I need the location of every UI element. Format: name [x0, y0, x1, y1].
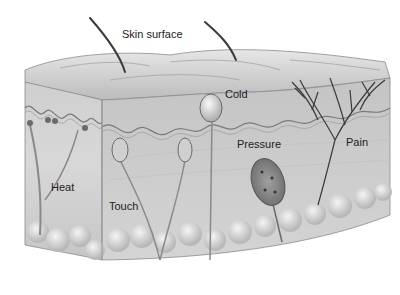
label-pain: Pain [346, 136, 368, 148]
label-skin-surface: Skin surface [122, 28, 183, 40]
label-touch: Touch [109, 200, 138, 212]
skin-cross-section-illustration [0, 0, 400, 295]
label-cold: Cold [225, 88, 248, 100]
label-heat: Heat [51, 181, 74, 193]
label-pressure: Pressure [237, 138, 281, 150]
